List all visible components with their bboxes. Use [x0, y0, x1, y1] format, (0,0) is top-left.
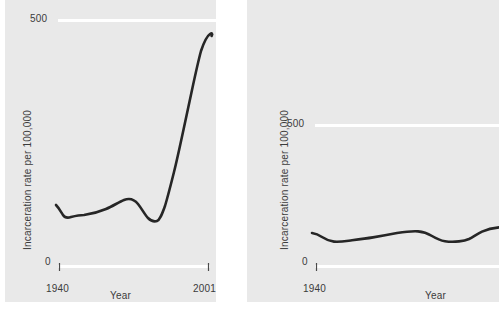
- right-ytick-label-0: 0: [302, 256, 308, 267]
- left-ytick-label-500: 500: [30, 13, 47, 24]
- figure-canvas: 500 0 Incarceration rate per 100,000 194…: [0, 0, 499, 316]
- right-x-axis-title: Year: [425, 290, 446, 301]
- left-y-axis-title: Incarceration rate per 100,000: [22, 110, 33, 250]
- left-incarceration-rate-line: [56, 33, 212, 221]
- right-incarceration-rate-line: [312, 227, 499, 241]
- right-y-axis-title: Incarceration rate per 100,000: [279, 110, 290, 250]
- chart-panel-right: 500 0 Incarceration rate per 100,000 194…: [247, 0, 499, 302]
- left-x-axis-title: Year: [110, 290, 131, 301]
- left-xtick-label-1940: 1940: [46, 283, 69, 294]
- chart-panel-left: 500 0 Incarceration rate per 100,000 194…: [5, 0, 216, 302]
- right-xtick-label-1940: 1940: [303, 283, 326, 294]
- left-ytick-label-0: 0: [45, 256, 51, 267]
- left-panel-plot: [5, 0, 216, 302]
- left-xtick-label-2001: 2001: [193, 283, 216, 294]
